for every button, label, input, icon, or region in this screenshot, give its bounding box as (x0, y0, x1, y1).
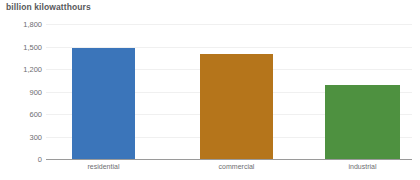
x-axis-tick-label-residential: residential (88, 163, 120, 170)
y-axis-tick-label: 1,200 (2, 65, 42, 74)
y-axis-tick-label: 300 (2, 132, 42, 141)
gridline (46, 24, 412, 25)
x-axis-tick-label-commercial: commercial (219, 163, 255, 170)
y-axis-tick-label: 900 (2, 87, 42, 96)
bar-commercial[interactable] (200, 54, 273, 159)
bar-industrial[interactable] (325, 85, 400, 159)
y-axis-tick-label: 1,800 (2, 20, 42, 29)
y-axis-tick-labels: 03006009001,2001,5001,800 (0, 0, 42, 180)
bar-chart: billion kilowatthours 03006009001,2001,5… (0, 0, 420, 180)
x-axis-line (46, 159, 412, 160)
x-axis-tick-label-industrial: industrial (348, 163, 376, 170)
y-axis-tick-label: 0 (2, 155, 42, 164)
y-axis-tick-label: 600 (2, 110, 42, 119)
y-axis-tick-label: 1,500 (2, 42, 42, 51)
plot-area (46, 24, 412, 159)
bar-residential[interactable] (72, 48, 135, 159)
